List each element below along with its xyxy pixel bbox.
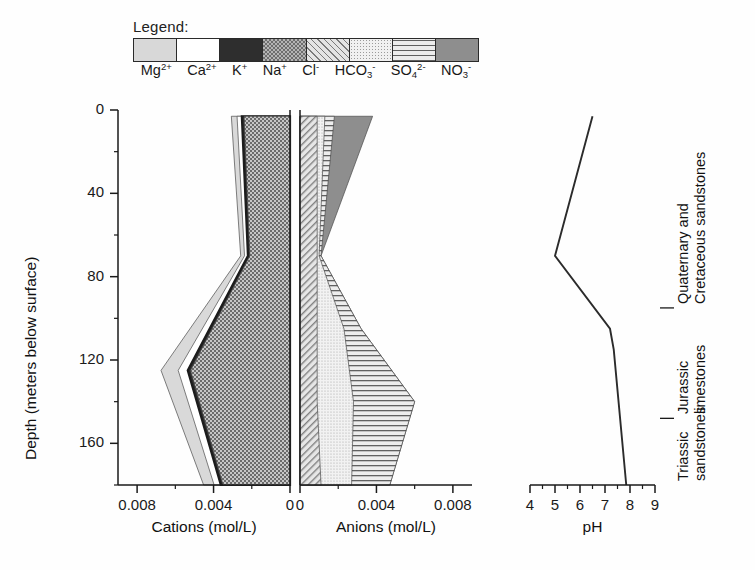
legend-label-mg: Mg2+ xyxy=(133,63,179,78)
geology-label-triassic-line1: Triassic xyxy=(676,432,691,481)
legend-swatch-cl xyxy=(307,39,350,61)
legend-title: Legend: xyxy=(133,18,479,35)
groundwater-chemistry-figure: Legend: Mg2+ Ca2+ K+ Na+ Cl- HCO3- SO42-… xyxy=(0,0,755,570)
anions-tick-0004: 0.004 xyxy=(338,496,414,513)
depth-tick-80: 80 xyxy=(0,267,104,284)
cations-tick-0004: 0.004 xyxy=(176,496,252,513)
depth-tick-40: 40 xyxy=(0,183,104,200)
ph-line xyxy=(555,116,626,485)
geology-label-quaternary-line2: Cretaceous sandstones xyxy=(693,152,708,304)
legend-label-hco3: HCO3- xyxy=(327,63,383,78)
legend-swatch-hco3 xyxy=(350,39,393,61)
ph-axis-title: pH xyxy=(563,518,623,536)
depth-tick-0: 0 xyxy=(0,100,104,117)
ph-tick-9: 9 xyxy=(640,496,670,513)
legend-swatch-na xyxy=(263,39,306,61)
depth-tick-160: 160 xyxy=(0,433,104,450)
cations-tick-0008: 0.008 xyxy=(99,496,175,513)
depth-tick-120: 120 xyxy=(0,350,104,367)
legend-swatch-bar xyxy=(133,38,479,62)
legend-swatch-ca xyxy=(177,39,220,61)
geology-label-triassic-line2: sandstones xyxy=(693,407,708,481)
legend-swatch-mg xyxy=(134,39,177,61)
anions-tick-0008: 0.008 xyxy=(415,496,491,513)
geology-label-quaternary-line1: Quaternary and xyxy=(676,203,691,304)
cations-axis-title: Cations (mol/L) xyxy=(136,518,272,536)
legend-label-cl: Cl- xyxy=(295,63,327,78)
anions-axis-title: Anions (mol/L) xyxy=(318,518,454,536)
legend-swatch-so4 xyxy=(393,39,436,61)
legend-swatch-no3 xyxy=(436,39,478,61)
legend-label-row: Mg2+ Ca2+ K+ Na+ Cl- HCO3- SO42- NO3- xyxy=(133,63,479,78)
legend-label-k: K+ xyxy=(224,63,255,78)
legend-label-ca: Ca2+ xyxy=(179,63,224,78)
geology-label-jurassic-line2: limestones xyxy=(693,345,708,414)
legend-label-na: Na+ xyxy=(255,63,295,78)
legend-label-so4: SO42- xyxy=(383,63,433,78)
legend-swatch-k xyxy=(220,39,263,61)
plot-canvas xyxy=(0,0,755,570)
legend: Legend: Mg2+ Ca2+ K+ Na+ Cl- HCO3- SO42-… xyxy=(133,18,479,78)
geology-label-jurassic-line1: Jurassic xyxy=(676,361,691,414)
legend-label-no3: NO3- xyxy=(433,63,479,78)
anions-tick-0: 0 xyxy=(262,496,338,513)
